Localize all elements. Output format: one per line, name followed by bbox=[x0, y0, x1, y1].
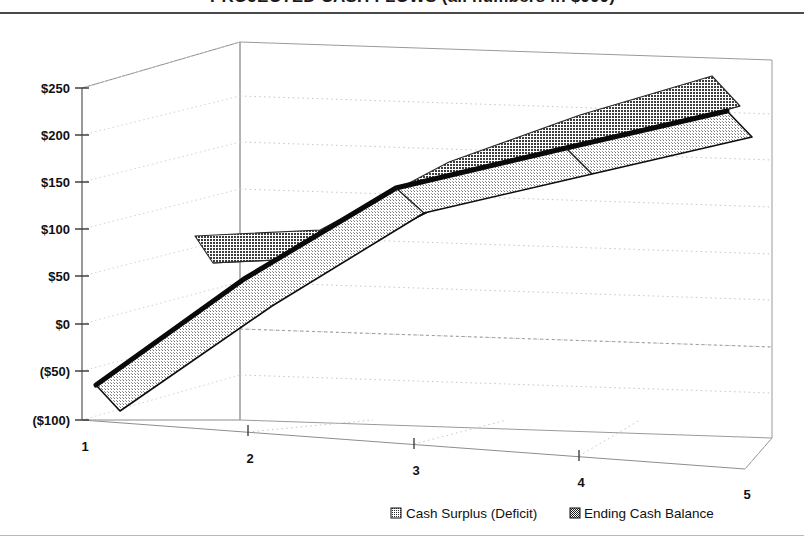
page-title: PROJECTED CASH FLOWS (all numbers in $00… bbox=[210, 0, 615, 7]
x-axis-labels: 1 2 3 4 5 bbox=[81, 439, 750, 502]
legend-label-ending-cash-balance: Ending Cash Balance bbox=[584, 506, 714, 521]
y-tick-label: $200 bbox=[41, 128, 70, 143]
bottom-divider bbox=[0, 535, 804, 536]
x-tick-label: 2 bbox=[246, 451, 253, 466]
legend-swatch-ending-cash-balance bbox=[570, 508, 580, 518]
y-tick-label: $50 bbox=[48, 269, 70, 284]
x-tick-label: 5 bbox=[743, 487, 750, 502]
y-tick-label: $100 bbox=[41, 222, 70, 237]
chart-page: PROJECTED CASH FLOWS (all numbers in $00… bbox=[0, 0, 804, 551]
x-tick-label: 3 bbox=[412, 463, 419, 478]
chart-title-strip: PROJECTED CASH FLOWS (all numbers in $00… bbox=[0, 0, 804, 11]
series-cash-surplus-deficit bbox=[96, 111, 752, 411]
y-tick-label: $150 bbox=[41, 175, 70, 190]
x-axis-ticks bbox=[248, 425, 579, 461]
chart-canvas: $250 $200 $150 $100 $50 $0 ($50) ($100) … bbox=[0, 14, 804, 534]
y-axis-labels: $250 $200 $150 $100 $50 $0 ($50) ($100) bbox=[32, 81, 70, 428]
legend-swatch-cash-surplus bbox=[391, 508, 401, 518]
x-tick-label: 1 bbox=[81, 439, 88, 454]
legend-label-cash-surplus: Cash Surplus (Deficit) bbox=[406, 506, 537, 521]
y-tick-label: $0 bbox=[56, 317, 70, 332]
y-tick-label: ($100) bbox=[32, 413, 70, 428]
chart-legend: Cash Surplus (Deficit) Ending Cash Balan… bbox=[391, 506, 714, 521]
y-tick-label: ($50) bbox=[40, 364, 70, 379]
x-tick-label: 4 bbox=[577, 475, 585, 490]
y-tick-label: $250 bbox=[41, 81, 70, 96]
zero-gridline bbox=[240, 329, 772, 347]
